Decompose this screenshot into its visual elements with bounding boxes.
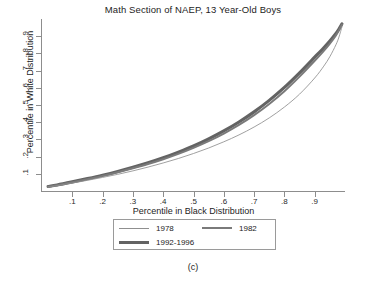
y-tick [36, 139, 41, 140]
x-tick-label: .8 [275, 197, 293, 206]
series-lines-svg [42, 19, 345, 191]
chart-title: Math Section of NAEP, 13 Year-Old Boys [0, 4, 386, 15]
y-tick [36, 174, 41, 175]
y-axis-title: Percentile in White Distribution [25, 12, 35, 172]
legend-swatch-1992-1996 [119, 241, 149, 244]
legend-label-1982: 1982 [239, 224, 257, 233]
y-tick [36, 105, 41, 106]
legend-swatch-1982 [202, 227, 232, 229]
x-tick-label: .3 [124, 197, 142, 206]
y-tick [36, 53, 41, 54]
legend-row-top: 1978 1982 [114, 221, 277, 235]
series-line-1982 [48, 25, 342, 187]
y-tick [36, 36, 41, 37]
legend-entry-1978[interactable]: 1978 [119, 221, 174, 235]
x-tick-label: .1 [63, 197, 81, 206]
series-line-1992-1996 [48, 24, 342, 187]
plot-area [42, 19, 345, 191]
x-tick-label: .6 [215, 197, 233, 206]
x-tick-label: .9 [306, 197, 324, 206]
x-tick-label: .4 [154, 197, 172, 206]
legend: 1978 1982 1992-1996 [113, 219, 276, 250]
x-tick-label: .7 [245, 197, 263, 206]
y-tick [36, 157, 41, 158]
y-tick [36, 88, 41, 89]
x-tick-label: .2 [94, 197, 112, 206]
x-axis-title: Percentile in Black Distribution [42, 206, 345, 216]
legend-row-bottom: 1992-1996 [114, 235, 277, 249]
y-tick [36, 122, 41, 123]
y-tick [36, 71, 41, 72]
x-tick-label: .5 [185, 197, 203, 206]
figure-caption: (c) [0, 262, 386, 272]
legend-entry-1992-1996[interactable]: 1992-1996 [119, 235, 194, 249]
series-line-1978 [48, 27, 342, 187]
legend-swatch-1978 [119, 228, 149, 229]
figure-container: Math Section of NAEP, 13 Year-Old Boys .… [0, 0, 386, 290]
legend-label-1978: 1978 [156, 224, 174, 233]
legend-entry-1982[interactable]: 1982 [202, 221, 257, 235]
legend-label-1992-1996: 1992-1996 [156, 238, 194, 247]
